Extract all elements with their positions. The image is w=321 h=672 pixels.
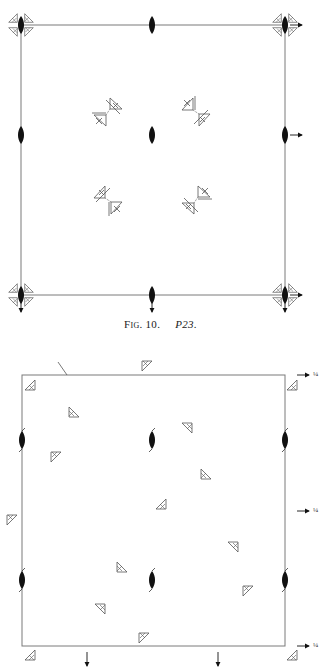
motif-triangle-icon	[9, 284, 18, 293]
motif-triangle-icon	[117, 562, 127, 572]
twofold-axis-icon	[149, 16, 155, 34]
screw-axis-icon	[19, 428, 25, 452]
motif-triangle-icon	[273, 28, 282, 37]
caption-prefix: Fig. 10.	[124, 318, 160, 330]
twofold-axis-icon	[18, 126, 24, 144]
motif-triangle-icon	[273, 284, 282, 293]
motif-triangle-icon	[289, 284, 298, 293]
caption-name: P23.	[175, 318, 197, 330]
motif-triangle-icon	[95, 604, 105, 614]
motif-triangle-icon	[139, 633, 149, 643]
motif-triangle-icon	[9, 14, 18, 23]
threefold-pair-icon	[182, 186, 212, 214]
figure-caption: Fig. 10. P23.	[0, 318, 321, 330]
motif-triangle-icon	[228, 542, 238, 552]
motif-triangle-icon	[51, 452, 61, 462]
threefold-pair-icon	[92, 98, 122, 126]
unit-cell-frame	[21, 25, 285, 295]
screw-axes	[19, 428, 288, 592]
unit-cell-frame-2	[22, 375, 285, 646]
motif-triangle-icon	[289, 298, 298, 307]
motif-triangle-icon	[289, 14, 298, 23]
twofold-axis-icon	[149, 126, 155, 144]
twofold-axis-icon	[282, 126, 288, 144]
motif-triangle-icon	[243, 586, 253, 596]
motif-triangle-icon	[182, 423, 192, 433]
motif-triangle-icon	[25, 284, 34, 293]
motif-triangle-icon	[142, 361, 152, 371]
twofold-axes	[18, 16, 288, 304]
motif-triangles	[7, 361, 297, 660]
quarter-height-label: ¼	[313, 642, 318, 649]
axis-arrows-2	[87, 375, 309, 666]
motif-triangle-icon	[289, 28, 298, 37]
twofold-axis-icon	[282, 16, 288, 34]
motif-triangle-icon	[287, 650, 297, 660]
axis-arrows	[21, 25, 302, 312]
screw-axis-icon	[282, 428, 288, 452]
motif-triangle-icon	[25, 380, 35, 390]
threefold-pair-icon	[182, 96, 210, 126]
screw-axis-icon	[149, 428, 155, 452]
motif-triangle-icon	[25, 28, 34, 37]
screw-axis-icon	[282, 568, 288, 592]
screw-axis-icon	[149, 568, 155, 592]
screw-axis-icon	[19, 568, 25, 592]
diagram-canvas	[0, 0, 321, 672]
quarter-height-label: ¼	[313, 371, 318, 378]
twofold-axis-icon	[18, 16, 24, 34]
motif-triangle-icon	[25, 298, 34, 307]
motif-triangle-icon	[9, 28, 18, 37]
motif-triangle-icon	[273, 14, 282, 23]
motif-triangle-icon	[7, 515, 17, 525]
corner-clusters	[9, 14, 298, 307]
motif-triangle-icon	[156, 499, 166, 509]
motif-triangle-icon	[201, 469, 211, 479]
threefold-pairs	[92, 96, 212, 216]
motif-triangle-icon	[9, 298, 18, 307]
figure-2	[7, 361, 309, 666]
motif-triangle-icon	[25, 650, 35, 660]
motif-triangle-icon	[25, 14, 34, 23]
motif-triangle-icon	[69, 407, 79, 417]
motif-triangle-icon	[273, 298, 282, 307]
figure-p23	[9, 14, 302, 312]
quarter-height-label: ¼	[313, 507, 318, 514]
motif-triangle-icon	[287, 380, 297, 390]
threefold-pair-icon	[94, 186, 122, 216]
diagonal-tick	[58, 362, 67, 375]
